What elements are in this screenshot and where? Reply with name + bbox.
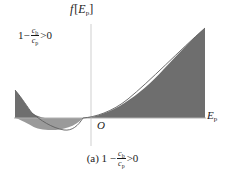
caption-fraction-numerator: cb [117, 150, 126, 159]
shaded-region-right-area [83, 28, 205, 118]
caption-numerator-sub: b [122, 153, 125, 159]
annotation-denominator-sub: p [35, 40, 38, 46]
caption-minus: − [110, 152, 116, 164]
annotation-fraction-numerator: cb [31, 27, 40, 36]
caption-index: (a) [87, 152, 99, 164]
caption-fraction-denominator: cp [117, 159, 126, 168]
caption-denominator-sub: p [122, 163, 125, 169]
caption-fraction: cbcp [117, 150, 126, 169]
figure-container: f[Ep] Ep O 1−cbcp>0 (a) 1 −cbcp>0 [0, 0, 225, 180]
annotation-numerator-sub: b [35, 30, 38, 36]
caption-lead: 1 [102, 152, 108, 164]
y-axis-label-variable: E [78, 2, 85, 16]
caption-relation: >0 [127, 152, 139, 164]
annotation-minus: − [24, 29, 30, 41]
annotation-inequality: 1−cbcp>0 [18, 27, 52, 46]
y-axis-label: f[Ep] [70, 3, 93, 15]
annotation-fraction: cbcp [31, 27, 40, 46]
shaded-region-left-wedge [15, 90, 45, 118]
figure-caption: (a) 1 −cbcp>0 [0, 150, 225, 169]
annotation-relation: >0 [40, 29, 52, 41]
x-axis-label-variable: E [207, 109, 214, 121]
y-axis-label-subscript: p [86, 9, 90, 17]
x-axis-label-subscript: p [214, 115, 218, 123]
x-axis-label: Ep [207, 110, 217, 121]
y-axis-label-close-bracket: ] [89, 2, 93, 16]
annotation-fraction-denominator: cp [31, 36, 40, 45]
origin-label: O [97, 120, 105, 131]
